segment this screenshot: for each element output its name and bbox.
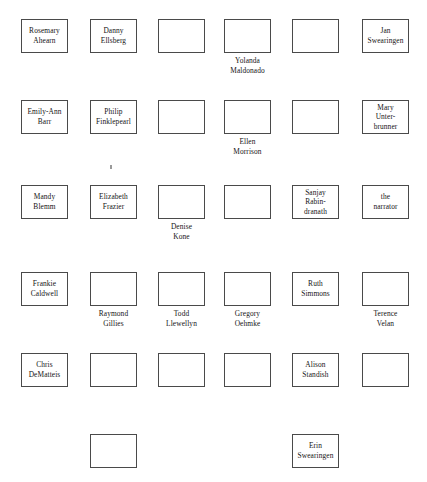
seat-name-label: Danny Ellsberg xyxy=(91,26,136,45)
seat-box[interactable] xyxy=(224,272,271,306)
seat-box[interactable] xyxy=(90,272,137,306)
seat-r3c3[interactable]: Denise Kone xyxy=(158,185,205,219)
seat-r4c1[interactable]: Frankie Caldwell xyxy=(21,272,68,306)
seat-r2c6[interactable]: Mary Unter- brunner xyxy=(362,100,409,134)
seat-box[interactable]: Jan Swearingen xyxy=(362,19,409,53)
seat-r1c6[interactable]: Jan Swearingen xyxy=(362,19,409,53)
seat-r6c2[interactable] xyxy=(90,434,137,468)
seat-r5c5[interactable]: Alison Standish xyxy=(292,353,339,387)
seat-box[interactable] xyxy=(362,272,409,306)
seat-box[interactable]: Mandy Blemm xyxy=(21,185,68,219)
seat-box[interactable] xyxy=(90,434,137,468)
seat-box[interactable] xyxy=(292,19,339,53)
seat-box[interactable]: the narrator xyxy=(362,185,409,219)
seat-r4c4[interactable]: Gregory Oehmke xyxy=(224,272,271,306)
seat-box[interactable] xyxy=(158,100,205,134)
seat-box[interactable] xyxy=(224,353,271,387)
seat-box[interactable] xyxy=(90,353,137,387)
seat-name-label: Sanjay Rabin- dranath xyxy=(293,188,338,217)
seat-name-label: Frankie Caldwell xyxy=(22,279,67,298)
seat-name-label-below: Todd Llewellyn xyxy=(145,309,219,329)
seat-box[interactable]: Emily-Ann Barr xyxy=(21,100,68,134)
seat-r1c3[interactable] xyxy=(158,19,205,53)
seat-r2c2[interactable]: Philip Finklepearl xyxy=(90,100,137,134)
seat-r3c6[interactable]: the narrator xyxy=(362,185,409,219)
seat-r2c1[interactable]: Emily-Ann Barr xyxy=(21,100,68,134)
seat-box[interactable]: Frankie Caldwell xyxy=(21,272,68,306)
seat-box[interactable]: Philip Finklepearl xyxy=(90,100,137,134)
stray-mark-icon xyxy=(110,165,112,169)
seat-r5c6[interactable] xyxy=(362,353,409,387)
seat-box[interactable]: Erin Swearingen xyxy=(292,434,339,468)
seat-box[interactable] xyxy=(362,353,409,387)
seating-chart: Rosemary AhearnDanny EllsbergYolanda Mal… xyxy=(0,0,427,482)
seat-r1c5[interactable] xyxy=(292,19,339,53)
seat-name-label: Jan Swearingen xyxy=(363,26,408,45)
seat-r5c4[interactable] xyxy=(224,353,271,387)
seat-box[interactable]: Rosemary Ahearn xyxy=(21,19,68,53)
seat-name-label: the narrator xyxy=(363,192,408,211)
seat-box[interactable]: Mary Unter- brunner xyxy=(362,100,409,134)
seat-name-label: Ruth Simmons xyxy=(293,279,338,298)
seat-r1c1[interactable]: Rosemary Ahearn xyxy=(21,19,68,53)
seat-box[interactable]: Elizabeth Frazier xyxy=(90,185,137,219)
seat-box[interactable] xyxy=(158,185,205,219)
seat-name-label: Erin Swearingen xyxy=(293,441,338,460)
seat-box[interactable] xyxy=(224,19,271,53)
seat-r3c4[interactable] xyxy=(224,185,271,219)
seat-r4c3[interactable]: Todd Llewellyn xyxy=(158,272,205,306)
seat-r5c2[interactable] xyxy=(90,353,137,387)
seat-r2c4[interactable]: Ellen Morrison xyxy=(224,100,271,134)
seat-name-label: Elizabeth Frazier xyxy=(91,192,136,211)
seat-box[interactable] xyxy=(224,100,271,134)
seat-r4c5[interactable]: Ruth Simmons xyxy=(292,272,339,306)
seat-name-label: Alison Standish xyxy=(293,360,338,379)
seat-r5c1[interactable]: Chris DeMatteis xyxy=(21,353,68,387)
seat-name-label-below: Raymond Gillies xyxy=(77,309,151,329)
seat-r1c4[interactable]: Yolanda Maldonado xyxy=(224,19,271,53)
seat-box[interactable] xyxy=(292,100,339,134)
seat-name-label-below: Denise Kone xyxy=(145,222,219,242)
seat-r1c2[interactable]: Danny Ellsberg xyxy=(90,19,137,53)
seat-name-label: Mandy Blemm xyxy=(22,192,67,211)
seat-name-label: Rosemary Ahearn xyxy=(22,26,67,45)
seat-box[interactable] xyxy=(158,19,205,53)
seat-name-label: Philip Finklepearl xyxy=(91,107,136,126)
seat-r4c6[interactable]: Terence Velan xyxy=(362,272,409,306)
seat-box[interactable] xyxy=(158,272,205,306)
seat-r3c1[interactable]: Mandy Blemm xyxy=(21,185,68,219)
seat-r3c2[interactable]: Elizabeth Frazier xyxy=(90,185,137,219)
seat-name-label: Mary Unter- brunner xyxy=(363,103,408,132)
seat-name-label-below: Yolanda Maldonado xyxy=(211,56,285,76)
seat-box[interactable]: Chris DeMatteis xyxy=(21,353,68,387)
seat-box[interactable] xyxy=(224,185,271,219)
seat-box[interactable]: Ruth Simmons xyxy=(292,272,339,306)
seat-name-label: Emily-Ann Barr xyxy=(22,107,67,126)
seat-r2c5[interactable] xyxy=(292,100,339,134)
seat-box[interactable] xyxy=(158,353,205,387)
seat-name-label-below: Gregory Oehmke xyxy=(211,309,285,329)
seat-box[interactable]: Danny Ellsberg xyxy=(90,19,137,53)
seat-name-label: Chris DeMatteis xyxy=(22,360,67,379)
seat-r4c2[interactable]: Raymond Gillies xyxy=(90,272,137,306)
seat-r5c3[interactable] xyxy=(158,353,205,387)
seat-r3c5[interactable]: Sanjay Rabin- dranath xyxy=(292,185,339,219)
seat-box[interactable]: Sanjay Rabin- dranath xyxy=(292,185,339,219)
seat-name-label-below: Terence Velan xyxy=(349,309,423,329)
seat-box[interactable]: Alison Standish xyxy=(292,353,339,387)
seat-name-label-below: Ellen Morrison xyxy=(211,137,285,157)
seat-r2c3[interactable] xyxy=(158,100,205,134)
seat-r6c5[interactable]: Erin Swearingen xyxy=(292,434,339,468)
